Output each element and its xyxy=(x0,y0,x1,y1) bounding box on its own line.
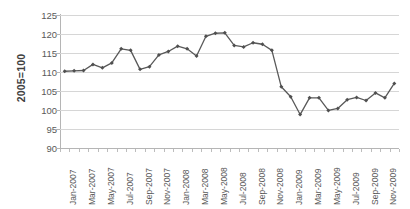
x-axis-tick-mark xyxy=(117,149,118,152)
x-axis-tick-mark xyxy=(69,149,70,152)
data-point-marker xyxy=(72,69,76,73)
x-axis-tick-label-text: Nov-2007 xyxy=(162,168,172,205)
data-series xyxy=(60,15,399,148)
x-axis-tick-label-text: Sep-2007 xyxy=(144,168,154,205)
y-axis-tick-label: 110 xyxy=(28,67,57,78)
x-axis-tick-label-text: Nov-2009 xyxy=(388,168,398,205)
x-axis-tick-mark xyxy=(295,149,296,152)
x-axis-tick-mark xyxy=(88,149,89,152)
x-axis-tick-labels: Jan-2007Mar-2007May-2007Jul-2007Sep-2007… xyxy=(60,153,399,209)
data-point-marker xyxy=(213,31,217,35)
x-axis-tick-mark xyxy=(352,149,353,152)
x-axis-tick-label-text: Jan-2007 xyxy=(68,170,78,205)
x-axis-tick-mark xyxy=(201,149,202,152)
y-axis-tick-label: 120 xyxy=(28,29,57,40)
x-axis-tick-label-text: Mar-2008 xyxy=(200,169,210,205)
x-axis-tick-label-text: Jul-2009 xyxy=(351,172,361,205)
x-axis-tick-mark xyxy=(79,149,80,152)
x-axis-tick-mark xyxy=(60,149,61,152)
x-axis-tick-mark xyxy=(324,149,325,152)
y-axis-tick-label: 100 xyxy=(28,105,57,116)
x-axis-tick-label-text: Jan-2008 xyxy=(181,170,191,205)
x-axis-tick-mark xyxy=(154,149,155,152)
x-axis-tick-mark xyxy=(220,149,221,152)
x-axis-tick-mark xyxy=(399,149,400,152)
x-axis-tick-mark xyxy=(333,149,334,152)
data-point-marker xyxy=(355,95,359,99)
x-axis-tick-label-text: Jul-2008 xyxy=(238,172,248,205)
x-axis-tick-mark xyxy=(164,149,165,152)
x-axis-tick-label-text: May-2008 xyxy=(219,167,229,205)
plot-area xyxy=(60,15,399,148)
x-axis-tick-mark xyxy=(135,149,136,152)
y-axis-tick-labels: 9095100105110115120125 xyxy=(28,9,57,153)
x-axis-tick-mark xyxy=(126,149,127,152)
x-axis-tick-label-text: Jul-2007 xyxy=(125,172,135,205)
x-axis-tick-mark xyxy=(182,149,183,152)
x-axis-tick-mark xyxy=(390,149,391,152)
x-axis-tick-mark xyxy=(211,149,212,152)
data-point-marker xyxy=(251,41,255,45)
x-axis-tick-label-text: Mar-2007 xyxy=(87,169,97,205)
x-axis-tick-label-text: Sep-2009 xyxy=(370,168,380,205)
x-axis-tick-label-text: May-2009 xyxy=(332,167,342,205)
data-point-marker xyxy=(242,45,246,49)
x-axis-tick-mark xyxy=(258,149,259,152)
x-axis-tick-mark xyxy=(343,149,344,152)
x-axis-tick-mark xyxy=(314,149,315,152)
x-axis-tick-mark xyxy=(192,149,193,152)
y-axis-tick-label: 90 xyxy=(28,143,57,154)
x-axis-tick-mark xyxy=(380,149,381,152)
x-axis-tick-mark xyxy=(145,149,146,152)
y-axis-tick-label: 115 xyxy=(28,48,57,59)
x-axis-tick-label-text: Nov-2008 xyxy=(275,168,285,205)
series-line xyxy=(65,33,395,115)
x-axis-tick-label-text: Jan-2009 xyxy=(294,170,304,205)
x-axis-tick-mark xyxy=(98,149,99,152)
x-axis-tick-mark xyxy=(277,149,278,152)
y-axis-tick-label: 95 xyxy=(28,124,57,135)
data-point-marker xyxy=(204,34,208,38)
y-axis-tick-label: 105 xyxy=(28,86,57,97)
x-axis-tick-mark xyxy=(371,149,372,152)
x-axis-tick-mark xyxy=(267,149,268,152)
x-axis-tick-mark xyxy=(248,149,249,152)
x-axis-tick-mark xyxy=(239,149,240,152)
x-axis-tick-mark xyxy=(107,149,108,152)
x-axis-tick-mark xyxy=(230,149,231,152)
x-axis-tick-label-text: May-2007 xyxy=(106,167,116,205)
y-axis-tick-label: 125 xyxy=(28,10,57,21)
y-axis-title-label: 2005=100 xyxy=(16,53,28,102)
x-axis-tick-mark xyxy=(361,149,362,152)
line-chart: 2005=100 9095100105110115120125 Jan-2007… xyxy=(0,0,410,209)
x-axis-tick-label-text: Sep-2008 xyxy=(257,168,267,205)
x-axis-tick-mark xyxy=(286,149,287,152)
x-axis-tick-label-text: Mar-2009 xyxy=(313,169,323,205)
x-axis-tick-mark xyxy=(173,149,174,152)
x-axis-tick-mark xyxy=(305,149,306,152)
data-point-marker xyxy=(63,69,67,73)
